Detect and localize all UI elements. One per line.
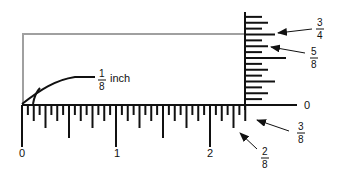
fraction-numerator: 5 <box>311 46 317 57</box>
callout-five-eighths: 5 8 <box>310 46 318 70</box>
arrow-three-quarters <box>278 29 312 33</box>
fraction-numerator: 3 <box>317 17 323 28</box>
callout-three-quarters: 3 4 <box>316 17 324 41</box>
arrow-three-eighths <box>257 120 289 131</box>
callout-three-eighths: 3 8 <box>297 121 305 145</box>
callout-one-eighth-inch: 1 8 inch <box>98 68 130 92</box>
fraction-numerator: 3 <box>298 121 304 132</box>
callout-two-eighths: 2 8 <box>261 146 269 170</box>
h-label-0: 0 <box>19 147 25 159</box>
guide-box <box>23 34 245 105</box>
fraction-numerator: 2 <box>262 146 268 157</box>
h-label-1: 1 <box>114 147 120 159</box>
ruler-diagram: 0 1 2 0 1 8 inch 3 4 5 8 3 8 2 8 <box>0 0 363 173</box>
unit-label: inch <box>110 72 130 84</box>
fraction-denominator: 8 <box>298 134 304 145</box>
h-label-2: 2 <box>207 147 213 159</box>
fraction-denominator: 8 <box>311 59 317 70</box>
one-eighth-curve-branch <box>33 88 40 104</box>
fraction-denominator: 4 <box>317 30 323 41</box>
horizontal-ruler-labels: 0 1 2 <box>19 147 213 159</box>
vertical-zero-label: 0 <box>304 99 310 111</box>
fraction-numerator: 1 <box>99 68 105 79</box>
fraction-denominator: 8 <box>262 159 268 170</box>
vertical-ruler <box>245 12 286 110</box>
horizontal-ruler <box>22 105 245 147</box>
fraction-denominator: 8 <box>99 81 105 92</box>
arrow-five-eighths <box>271 47 305 53</box>
arrow-two-eighths <box>240 133 257 149</box>
